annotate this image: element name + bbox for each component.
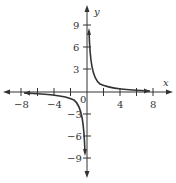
origin-label: 0: [80, 94, 86, 105]
y-tick-label-3: 3: [73, 64, 79, 75]
x-axis-label: x: [163, 77, 169, 88]
x-tick-label-8: 8: [150, 99, 156, 110]
x-tick-label-4: 4: [117, 99, 123, 110]
y-tick-label-6: 6: [73, 42, 79, 53]
y-tick-label-9: 9: [73, 20, 79, 31]
x-tick-label-neg4: −4: [47, 99, 62, 110]
y-tick-label-neg3: −3: [67, 109, 82, 120]
y-tick-label-neg6: −6: [67, 131, 82, 142]
hyperbola-chart: y x 0 −8 −4 4 8 9 6 3 −3 −6 −9: [0, 0, 176, 183]
y-tick-label-neg9: −9: [67, 153, 82, 164]
x-tick-label-neg8: −8: [14, 99, 29, 110]
y-axis-label: y: [93, 6, 100, 17]
